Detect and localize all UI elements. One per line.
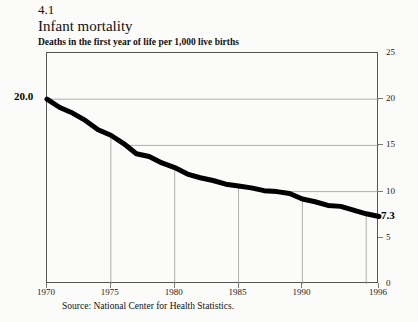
- y-axis-tick-label: 10: [386, 186, 395, 196]
- chart-title: Infant mortality: [38, 17, 378, 35]
- x-axis-tick-label: 1990: [292, 287, 310, 297]
- x-axis-tick-label: 1970: [37, 287, 55, 297]
- x-axis-tick-label: 1985: [229, 287, 247, 297]
- y-axis-tick-label: 25: [386, 47, 395, 57]
- plot-inner: [47, 53, 377, 282]
- source-note: Source: National Center for Health Stati…: [62, 301, 234, 311]
- x-axis-tick-label: 1975: [101, 287, 119, 297]
- y-axis-tick-label: 20: [386, 93, 395, 103]
- x-axis-tick-label: 1996: [369, 287, 387, 297]
- y-tick: [378, 191, 383, 192]
- x-tick: [378, 283, 379, 288]
- end-value-label: 7.3: [381, 209, 395, 221]
- chart-header: 4.1 Infant mortality Deaths in the first…: [38, 2, 378, 48]
- y-axis-tick-label: 5: [386, 232, 391, 242]
- chart-page: 4.1 Infant mortality Deaths in the first…: [0, 0, 418, 322]
- x-axis-tick-label: 1980: [165, 287, 183, 297]
- x-tick: [174, 283, 175, 288]
- y-tick: [378, 237, 383, 238]
- y-tick: [378, 98, 383, 99]
- x-tick: [301, 283, 302, 288]
- data-line-infant-mortality: [47, 99, 379, 216]
- figure-number: 4.1: [38, 2, 378, 17]
- x-tick: [110, 283, 111, 288]
- x-tick: [238, 283, 239, 288]
- chart-subtitle: Deaths in the first year of life per 1,0…: [38, 36, 378, 48]
- start-value-label: 20.0: [14, 90, 33, 102]
- plot-area: [46, 52, 378, 283]
- y-tick: [378, 144, 383, 145]
- y-axis-tick-label: 15: [386, 139, 395, 149]
- chart-svg: [47, 53, 379, 284]
- x-tick: [46, 283, 47, 288]
